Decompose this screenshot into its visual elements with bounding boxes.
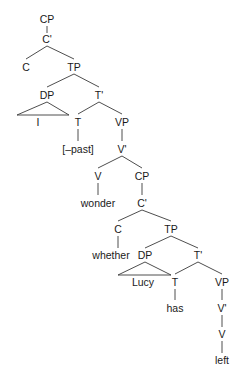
tree-edge (78, 102, 99, 114)
dp2-triangle (118, 262, 171, 275)
tree-node-i: I (37, 116, 40, 128)
tree-node-tbar1: T' (95, 89, 103, 101)
tree-edges (26, 26, 222, 353)
tree-edge (98, 156, 122, 168)
tree-nodes: CPC'CTPDPT'ITVP[–past]V'VCPwonderC'CTPwh… (22, 13, 229, 366)
tree-node-c2: C (114, 223, 122, 235)
tree-node-tp2: TP (164, 223, 177, 235)
tree-node-cp1: CP (40, 13, 55, 25)
tree-edge (74, 74, 99, 87)
tree-node-cbar1: C' (42, 33, 52, 45)
syntax-tree-diagram: CPC'CTPDPT'ITVP[–past]V'VCPwonderC'CTPwh… (0, 0, 241, 377)
tree-node-tp1: TP (67, 61, 80, 73)
tree-node-lucy: Lucy (132, 276, 155, 288)
tree-edge (198, 262, 222, 274)
tree-node-past: [–past] (62, 143, 94, 155)
tree-node-has: has (167, 302, 184, 314)
tree-edge (118, 210, 142, 221)
tree-edge (26, 46, 47, 59)
tree-edge (142, 210, 171, 221)
tree-node-v2: V (218, 328, 225, 340)
tree-node-whether: whether (91, 249, 130, 261)
tree-edge (175, 262, 198, 274)
tree-node-cbar2: C' (137, 197, 147, 209)
tree-node-dp2: DP (138, 249, 153, 261)
tree-node-vp1: VP (115, 116, 129, 128)
tree-node-v1: V (94, 170, 101, 182)
tree-edge (122, 156, 142, 168)
tree-node-c1: C (22, 61, 30, 73)
tree-node-cp2: CP (135, 170, 150, 182)
tree-edge (145, 236, 171, 248)
tree-node-vp2: VP (215, 276, 229, 288)
tree-node-dp1: DP (40, 89, 55, 101)
tree-node-vbar2: V' (217, 302, 226, 314)
tree-edge (47, 74, 74, 87)
tree-edge (47, 46, 74, 59)
tree-node-vbar1: V' (117, 143, 126, 155)
tree-node-tbar2: T' (194, 249, 202, 261)
tree-edge (99, 102, 122, 114)
tree-node-t2: T (172, 276, 179, 288)
tree-node-wonder: wonder (80, 197, 116, 209)
dp1-triangle (17, 102, 69, 115)
tree-edge (171, 236, 198, 248)
tree-node-left: left (215, 354, 229, 366)
tree-node-t1: T (75, 116, 82, 128)
